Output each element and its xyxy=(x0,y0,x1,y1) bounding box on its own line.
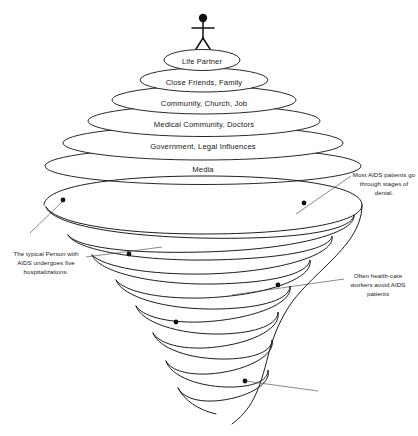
spiral-coil-2 xyxy=(46,207,354,252)
ring-label-community: Community, Church, Job xyxy=(161,99,247,108)
annotation-hospitalizations: The typical Person with AIDS undergoes f… xyxy=(6,250,86,276)
marker-dots xyxy=(61,198,307,384)
stick-figure xyxy=(192,14,214,49)
figure-head-icon xyxy=(199,14,207,22)
marker-dot-5 xyxy=(174,320,179,325)
ring-label-government: Government, Legal Influences xyxy=(150,142,256,151)
marker-dot-2 xyxy=(302,201,307,206)
spiral-coil xyxy=(44,176,362,424)
annotation-denial: Most AIDS patients go through stages of … xyxy=(352,171,416,197)
ring-label-media: Media xyxy=(192,165,214,174)
annotation-workers: Often health-care workers avoid AIDS pat… xyxy=(344,272,412,298)
diagram-canvas: Media Government, Legal Influences Medic… xyxy=(0,0,418,436)
figure-leg-left xyxy=(196,38,203,49)
leader-line-marker-1 xyxy=(30,201,63,233)
spiral-coil-5 xyxy=(116,280,290,322)
ring-label-life-partner: Life Partner xyxy=(182,57,222,66)
ring-stack: Media Government, Legal Influences Medic… xyxy=(45,50,361,185)
ring-label-medical-community: Medical Community, Doctors xyxy=(154,120,254,129)
figure-leg-right xyxy=(203,38,210,49)
marker-dot-4 xyxy=(276,283,281,288)
spiral-coil-7 xyxy=(153,333,272,374)
spiral-diagram: Media Government, Legal Influences Medic… xyxy=(0,0,418,436)
marker-dot-3 xyxy=(127,252,132,257)
spiral-coil-4 xyxy=(92,255,310,298)
marker-dot-1 xyxy=(61,198,66,203)
spiral-coil-8 xyxy=(166,361,268,401)
spiral-coil-6 xyxy=(136,306,278,348)
ring-label-close-friends: Close Friends, Family xyxy=(166,78,243,87)
